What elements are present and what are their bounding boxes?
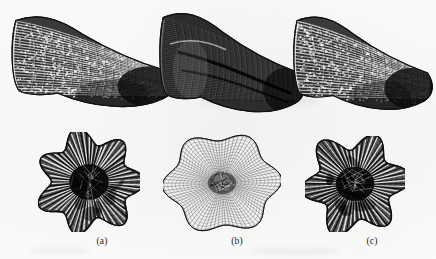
scan-smudge [250, 248, 340, 255]
caption-a: (a) [82, 236, 122, 246]
specimen-c-calyx [305, 136, 405, 232]
specimen-a-lateral [10, 10, 175, 115]
caption-b: (b) [217, 236, 257, 246]
specimen-b-lateral [158, 6, 306, 121]
scan-smudge [30, 248, 90, 254]
specimen-b-calyx [163, 132, 281, 234]
specimen-c-lateral [292, 10, 434, 118]
caption-c: (c) [352, 236, 392, 246]
figure-plate: (a) (b) (c) [0, 0, 436, 259]
specimen-a-calyx [38, 132, 140, 232]
